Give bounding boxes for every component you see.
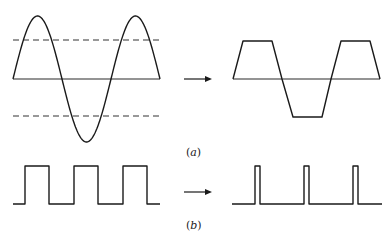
right-arrow-icon xyxy=(184,76,212,82)
panel-a-input xyxy=(13,16,162,142)
panel-b-label: (b) xyxy=(186,219,202,232)
pulse-train xyxy=(232,166,382,204)
panel-b-input xyxy=(13,166,160,204)
panel-b-output xyxy=(232,166,382,204)
right-arrow-icon xyxy=(184,189,212,195)
panel-a-label: (a) xyxy=(186,146,201,159)
square-wave xyxy=(13,166,160,204)
clipping-diagram: (a) (b) xyxy=(0,0,389,237)
panel-a-output xyxy=(233,41,380,117)
